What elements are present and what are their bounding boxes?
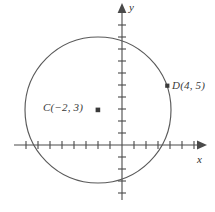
- y-axis-label: y: [129, 1, 134, 13]
- x-axis-arrowhead: [197, 141, 207, 150]
- point-c-label: C(−2, 3): [43, 101, 83, 113]
- coordinate-plane-svg: [0, 0, 215, 212]
- circle-coordinate-figure: C(−2, 3) D(4, 5) x y: [0, 0, 215, 212]
- point-d-label: D(4, 5): [172, 79, 205, 91]
- y-axis-arrowhead: [118, 3, 127, 13]
- x-axis-label: x: [197, 153, 202, 165]
- point-c-marker: [96, 108, 101, 113]
- point-d-marker: [165, 84, 169, 88]
